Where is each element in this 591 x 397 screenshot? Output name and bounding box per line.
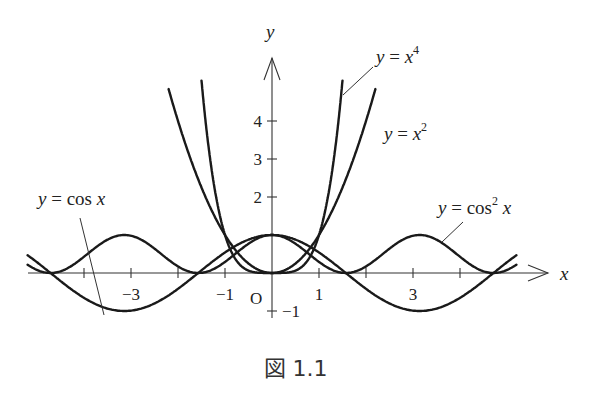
label-x2-mid: = <box>392 123 412 144</box>
label-x4-y: y <box>374 46 385 67</box>
label-cos-y: y <box>36 188 47 209</box>
label-cos2-y: y <box>436 197 447 218</box>
label-x4: y = x4 <box>374 43 419 67</box>
label-x2-exp: 2 <box>421 120 427 134</box>
x-tick-label: 1 <box>315 285 324 304</box>
label-cos2-mid: = cos <box>446 197 492 218</box>
label-x4-mid: = <box>384 46 404 67</box>
y-tick-label: −1 <box>282 302 300 321</box>
leader-cos <box>80 218 104 315</box>
label-cos: y = cos x <box>36 188 106 209</box>
label-cos2: y = cos2 x <box>436 194 512 218</box>
x-tick-label: −3 <box>122 285 140 304</box>
label-cos2-x: x <box>498 197 512 218</box>
label-cos-mid: = cos <box>46 188 96 209</box>
y-tick-label: 2 <box>254 188 263 207</box>
x-tick-label: −1 <box>216 285 234 304</box>
function-plot: −3−113 −1234 x y O y = cos x y = cos2 x … <box>0 0 591 397</box>
label-cos-x: x <box>96 188 106 209</box>
leader-cos2 <box>442 222 463 242</box>
origin-label: O <box>250 289 262 308</box>
y-axis-label: y <box>264 21 275 42</box>
y-tick-label: 3 <box>254 150 263 169</box>
label-x2: y = x2 <box>382 120 427 144</box>
x-axis-label: x <box>559 263 569 284</box>
label-x4-exp: 4 <box>413 43 419 57</box>
figure-caption: 図 1.1 <box>0 350 591 382</box>
y-tick-label: 4 <box>254 112 263 131</box>
label-x2-y: y <box>382 123 393 144</box>
leader-x4 <box>343 67 373 95</box>
x-tick-label: 3 <box>409 285 418 304</box>
